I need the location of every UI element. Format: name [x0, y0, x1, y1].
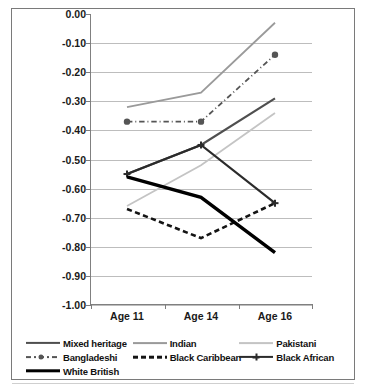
legend-plus-marker-icon: [253, 354, 260, 361]
series-marker: [198, 118, 204, 124]
legend-label: Black African: [276, 352, 334, 363]
legend-item[interactable]: Black Caribbean: [133, 350, 240, 364]
series-marker: [124, 118, 130, 124]
legend-line-sample: [239, 342, 273, 344]
legend-line-sample: [26, 342, 60, 344]
legend-label: Mixed heritage: [63, 338, 127, 349]
y-axis-tick-label: -0.10: [62, 37, 86, 49]
legend-swatch: [133, 337, 167, 349]
legend-swatch: [239, 337, 273, 349]
y-axis-tick-label: -0.20: [62, 66, 86, 78]
legend-circle-marker-icon: [39, 355, 44, 360]
legend-item[interactable]: White British: [26, 364, 133, 378]
legend-item[interactable]: Bangladeshi: [26, 350, 133, 364]
legend-swatch: [26, 351, 60, 363]
legend-separator: [12, 383, 354, 384]
legend-item[interactable]: Indian: [133, 336, 240, 350]
series-line: [127, 177, 275, 253]
legend-line-sample: [26, 369, 60, 372]
series-line: [127, 203, 275, 238]
legend-label: Black Caribbean: [170, 352, 241, 363]
legend-item[interactable]: Mixed heritage: [26, 336, 133, 350]
legend-label: Pakistani: [276, 338, 316, 349]
legend-swatch: [26, 337, 60, 349]
chart-title: [0, 0, 367, 6]
y-axis-tick-label: -0.40: [62, 124, 86, 136]
chart-screenshot: Mean normal score 0.00-0.10-0.20-0.30-0.…: [0, 0, 367, 389]
y-axis-tick-label: -0.30: [62, 95, 86, 107]
legend-label: Indian: [170, 338, 197, 349]
y-axis-tick-label: -1.00: [62, 299, 86, 311]
legend-label: Bangladeshi: [63, 352, 117, 363]
legend-swatch: [239, 351, 273, 363]
legend-line-sample: [133, 342, 167, 344]
y-axis-tick-label: -0.50: [62, 154, 86, 166]
gridline: [91, 305, 312, 306]
y-axis-tick-label: 0.00: [66, 8, 86, 20]
legend-grid: Mixed heritageIndianPakistaniBangladeshi…: [26, 336, 346, 378]
legend-label: White British: [63, 366, 119, 377]
y-axis-tick-label: -0.90: [62, 270, 86, 282]
y-axis-tick-labels: 0.00-0.10-0.20-0.30-0.40-0.50-0.60-0.70-…: [40, 14, 86, 305]
x-axis-tick-label: Age 11: [90, 310, 164, 328]
x-axis-tick-labels: Age 11Age 14Age 16: [90, 310, 312, 328]
legend-item[interactable]: Black African: [239, 350, 346, 364]
series-layer: [90, 14, 312, 305]
series-line: [127, 113, 275, 206]
plot-area: [90, 14, 312, 305]
y-axis-tick-label: -0.70: [62, 212, 86, 224]
series-marker: [272, 52, 278, 58]
x-axis-tick-label: Age 14: [164, 310, 238, 328]
legend-swatch: [26, 365, 60, 377]
series-line: [127, 98, 275, 174]
legend-item[interactable]: Pakistani: [239, 336, 346, 350]
chart-legend: Mixed heritageIndianPakistaniBangladeshi…: [12, 333, 354, 379]
x-axis-tick-label: Age 16: [238, 310, 312, 328]
x-axis-tick: [312, 304, 313, 309]
y-axis-tick-label: -0.60: [62, 183, 86, 195]
legend-swatch: [133, 351, 167, 363]
series-line: [127, 23, 275, 107]
y-axis-tick-label: -0.80: [62, 241, 86, 253]
legend-line-sample: [133, 356, 167, 359]
